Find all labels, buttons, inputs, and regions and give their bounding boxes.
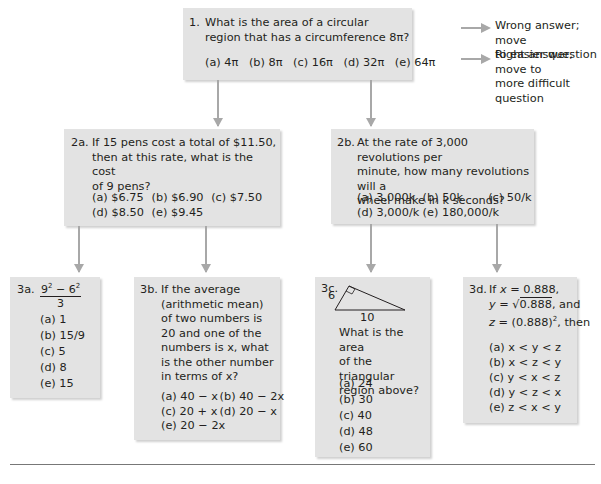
bottom-divider <box>10 464 595 465</box>
question-text: If 15 pens cost a total of $11.50, then … <box>92 136 280 194</box>
answer-options: (a) 40 − x (b) 40 − 2x (c) 20 + x (d) 20… <box>161 390 284 434</box>
answer-options: (a) 24 (b) 30 (c) 40 (d) 48 (e) 60 <box>339 377 373 457</box>
option-e: (e) 15 <box>40 377 85 393</box>
option-e: (e) 180,000/k <box>423 206 499 221</box>
option-c: (c) 50/k <box>488 191 531 206</box>
option-b: (b) 15/9 <box>40 329 85 345</box>
arrow-wrong-q2b-to-q3c-icon <box>370 224 372 272</box>
answer-options: (a) 3,000k (b) 50k (c) 50/k (d) 3,000/k … <box>357 191 532 220</box>
option-d: (d) 20 − x <box>220 405 277 420</box>
option-c: (c) y < x < z <box>489 371 561 386</box>
answer-options: (a) 4π (b) 8π (c) 16π (d) 32π (e) 64π <box>205 56 435 71</box>
question-number: 3d. <box>469 283 487 298</box>
line-z: z = (0.888)2, then <box>489 312 590 330</box>
question-number: 3b. <box>140 283 158 298</box>
question-number: 1. <box>189 16 200 31</box>
answer-options: (a) x < y < z (b) x < z < y (c) y < x < … <box>489 341 561 416</box>
arrow-right-q1-to-q2b-icon <box>370 80 372 126</box>
arrow-right-q2b-to-q3d-icon <box>496 224 498 272</box>
option-d: (d) 32π <box>343 56 384 69</box>
option-d: (d) $8.50 <box>92 206 148 221</box>
question-number: 2a. <box>71 136 89 151</box>
option-b: (b) 8π <box>249 56 283 69</box>
arrow-wrong-q1-to-q2a-icon <box>217 80 219 126</box>
question-2b-box: 2b. At the rate of 3,000 revolutions per… <box>331 129 534 224</box>
option-e: (e) $9.45 <box>152 206 204 221</box>
option-a: (a) 40 − x <box>161 390 216 405</box>
option-a: (a) 3,000k <box>357 191 419 206</box>
arrow-wrong-q2a-to-q3a-icon <box>78 226 80 272</box>
option-b: (b) 40 − 2x <box>220 390 284 405</box>
option-b: (b) x < z < y <box>489 356 561 371</box>
option-a: (a) $6.75 <box>92 191 148 206</box>
option-d: (d) 3,000/k <box>357 206 419 221</box>
option-c: (c) 5 <box>40 345 85 361</box>
right-answer-arrow-icon <box>461 58 489 60</box>
option-c: (c) 40 <box>339 409 373 425</box>
question-number: 2b. <box>337 136 355 151</box>
option-e: (e) 20 − 2x <box>161 419 225 434</box>
question-3a-box: 3a. 92 − 62 3 (a) 1 (b) 15/9 (c) 5 (d) 8… <box>10 277 100 398</box>
question-2a-box: 2a. If 15 pens cost a total of $11.50, t… <box>64 129 280 226</box>
option-e: (e) 64π <box>395 56 436 69</box>
wrong-answer-arrow-icon <box>461 27 489 29</box>
right-triangle-figure <box>325 280 425 320</box>
option-c: (c) $7.50 <box>211 191 262 206</box>
option-d: (d) y < z < x <box>489 386 561 401</box>
legend-right-answer: Right answer; move to more difficult que… <box>495 48 601 106</box>
question-text: If x = 0.888, y = √0.888, and z = (0.888… <box>489 283 590 330</box>
question-number: 3a. <box>17 283 35 298</box>
question-3d-box: 3d. If x = 0.888, y = √0.888, and z = (0… <box>463 277 577 423</box>
option-b: (b) 50k <box>423 191 485 206</box>
answer-options: (a) $6.75 (b) $6.90 (c) $7.50 (d) $8.50 … <box>92 191 262 220</box>
question-text: What is the area of a circular region th… <box>205 16 409 45</box>
option-c: (c) 20 + x <box>161 405 216 420</box>
question-1-box: 1. What is the area of a circular region… <box>183 8 412 80</box>
base-label: 10 <box>360 311 374 326</box>
answer-options: (a) 1 (b) 15/9 (c) 5 (d) 8 (e) 15 <box>40 313 85 393</box>
option-a: (a) x < y < z <box>489 341 561 356</box>
question-text: If the average (arithmetic mean) of two … <box>161 283 274 385</box>
fraction-expression: 92 − 62 3 <box>40 280 81 310</box>
arrow-right-q2a-to-q3b-icon <box>205 226 207 272</box>
line-y: y = √0.888, and <box>489 298 590 313</box>
line-x: If x = 0.888, <box>489 283 590 298</box>
option-d: (d) 48 <box>339 425 373 441</box>
option-d: (d) 8 <box>40 361 85 377</box>
option-b: (b) 30 <box>339 393 373 409</box>
option-a: (a) 1 <box>40 313 85 329</box>
option-e: (e) 60 <box>339 441 373 457</box>
question-3c-box: 3c. 6 10 What is the area of the triangu… <box>315 277 430 457</box>
option-c: (c) 16π <box>293 56 333 69</box>
option-a: (a) 4π <box>205 56 238 69</box>
option-b: (b) $6.90 <box>152 191 208 206</box>
side-label: 6 <box>328 289 335 304</box>
option-a: (a) 24 <box>339 377 373 393</box>
option-e: (e) z < x < y <box>489 401 561 416</box>
question-3b-box: 3b. If the average (arithmetic mean) of … <box>134 277 280 440</box>
